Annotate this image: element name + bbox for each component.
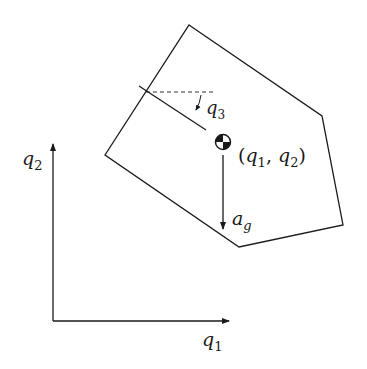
x-axis-label: q1 bbox=[202, 328, 222, 354]
center-of-mass-label: (q1, q2) bbox=[238, 144, 306, 170]
angle-arrow bbox=[196, 95, 201, 110]
coordinate-axes bbox=[53, 144, 229, 321]
body-orientation-line bbox=[139, 86, 206, 130]
center-of-mass-icon bbox=[216, 135, 231, 150]
y-axis-label: q2 bbox=[22, 147, 42, 173]
angle-label: q3 bbox=[206, 97, 225, 122]
gravity-label: ag bbox=[232, 207, 252, 233]
rigid-body-diagram: q2 q1 q3 (q1, q2) ag bbox=[0, 0, 367, 369]
